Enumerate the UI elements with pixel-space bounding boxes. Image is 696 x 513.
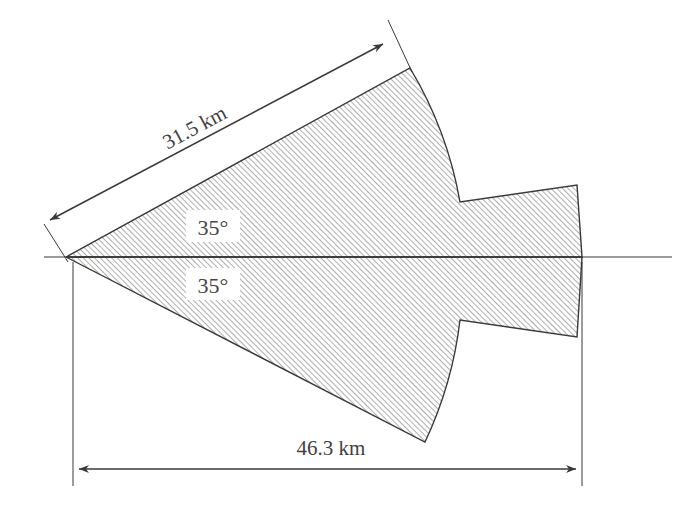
lower-angle-label-group: 35°: [186, 268, 240, 300]
slant-extension-line-rim: [388, 20, 412, 72]
slant-distance-label: 31.5 km: [159, 101, 231, 155]
lower-sector-region: [66, 257, 582, 442]
upper-sector-region: [66, 68, 582, 257]
sector-diagram-svg: 31.5 km 46.3 km 35° 35°: [0, 0, 696, 513]
slant-extension-line-apex: [44, 224, 68, 262]
lower-angle-label: 35°: [198, 273, 229, 298]
width-distance-label: 46.3 km: [297, 436, 366, 460]
sector-shape-group: [66, 68, 582, 442]
upper-angle-label: 35°: [198, 215, 229, 240]
diagram-canvas: 31.5 km 46.3 km 35° 35°: [0, 0, 696, 513]
upper-angle-label-group: 35°: [186, 210, 240, 242]
